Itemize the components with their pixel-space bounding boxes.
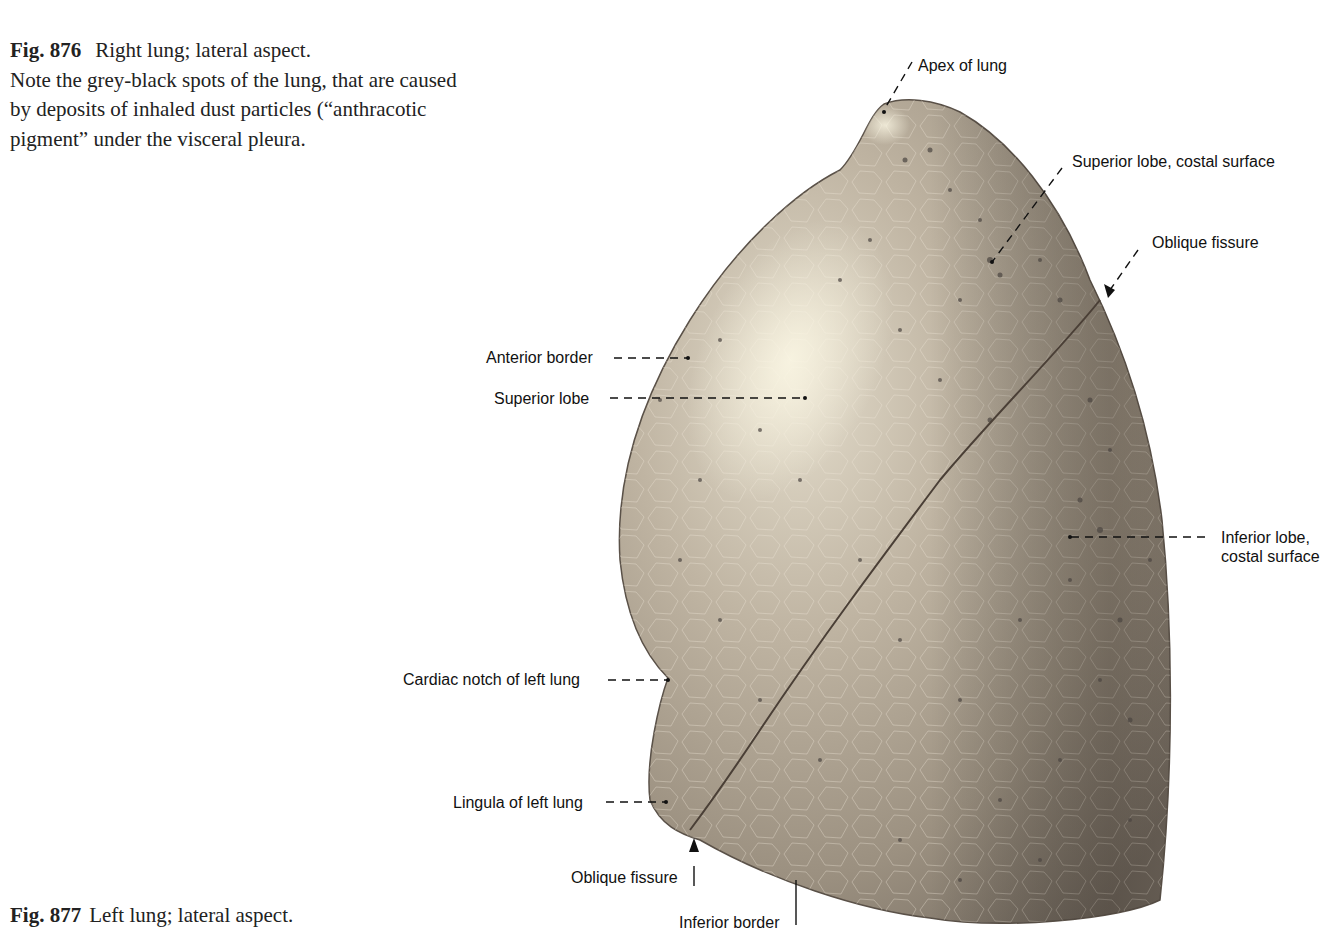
- lung-body: [600, 90, 1200, 930]
- figure-877-number: Fig. 877: [10, 903, 81, 927]
- figure-877-caption: Fig. 877Left lung; lateral aspect.: [10, 903, 293, 928]
- label-inferior-border: Inferior border: [679, 913, 780, 932]
- label-superior-lobe-costal-surface: Superior lobe, costal surface: [1072, 152, 1275, 171]
- label-inferior-lobe-costal-surface: Inferior lobe, costal surface: [1221, 528, 1320, 566]
- label-inferior-lobe-line-1: Inferior lobe,: [1221, 528, 1320, 547]
- label-inferior-lobe-line-2: costal surface: [1221, 547, 1320, 566]
- label-oblique-fissure-bottom: Oblique fissure: [571, 868, 678, 887]
- leader-oblique-fissure-top: [1110, 250, 1138, 290]
- label-anterior-border: Anterior border: [486, 348, 593, 367]
- arrow-oblique-fissure-bottom-icon: [689, 838, 699, 852]
- label-apex-of-lung: Apex of lung: [918, 56, 1007, 75]
- left-lung-illustration: [0, 0, 1334, 932]
- label-superior-lobe: Superior lobe: [494, 389, 589, 408]
- figure-877-title: Left lung; lateral aspect.: [89, 903, 293, 927]
- label-lingula: Lingula of left lung: [453, 793, 583, 812]
- label-cardiac-notch: Cardiac notch of left lung: [403, 670, 580, 689]
- label-oblique-fissure-top: Oblique fissure: [1152, 233, 1259, 252]
